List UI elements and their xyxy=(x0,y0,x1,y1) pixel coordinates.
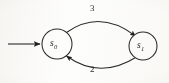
transition-label-s0-to-s1: 3 xyxy=(90,3,95,13)
transition-label-s1-to-s0: 2 xyxy=(90,64,95,74)
transition-arc-s0-to-s1 xyxy=(67,22,136,36)
state-label-s0-subscript: 0 xyxy=(54,43,57,50)
state-diagram-figure: s0 s1 3 2 xyxy=(0,0,169,83)
state-label-s0: s0 xyxy=(50,38,57,50)
state-label-s1: s1 xyxy=(137,40,144,52)
transition-arc-s1-to-s0 xyxy=(67,56,137,68)
state-label-s1-subscript: 1 xyxy=(141,45,144,52)
